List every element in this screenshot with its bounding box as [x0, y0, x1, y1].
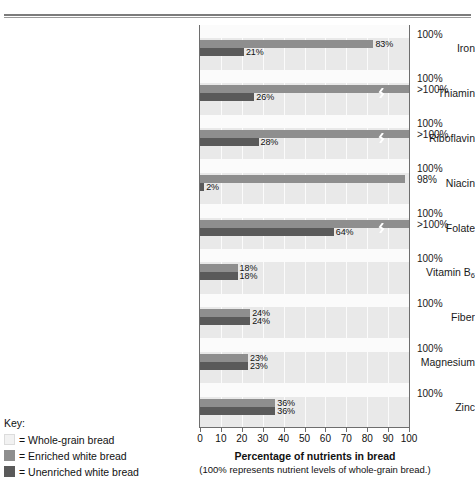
- x-axis-tick: [284, 428, 285, 432]
- x-axis-tick: [346, 428, 347, 432]
- category-label-niacin: Niacin: [285, 177, 475, 189]
- reference-label-niacin: 100%98%: [417, 163, 443, 185]
- bar-unenriched: [200, 93, 254, 101]
- reference-label-magnesium: 100%: [417, 343, 443, 354]
- bar-value-label-unenriched: 23%: [250, 362, 268, 370]
- legend-label-whole-grain: = Whole-grain bread: [19, 434, 114, 446]
- bar-enriched: [200, 354, 248, 362]
- bar-value-label-unenriched: 28%: [261, 138, 279, 146]
- bar-unenriched: [200, 48, 244, 56]
- bar-value-label-unenriched: 18%: [240, 272, 258, 280]
- bar-unenriched: [200, 138, 259, 146]
- x-axis-tick: [200, 428, 201, 432]
- legend-title: Key:: [4, 417, 194, 429]
- axis-title: Percentage of nutrients in bread: [169, 450, 461, 462]
- group-separator-band: [200, 294, 409, 307]
- legend-item-unenriched: = Unenriched white bread: [4, 464, 194, 479]
- reference-label-zinc: 100%: [417, 388, 443, 399]
- bar-enriched: [200, 264, 238, 272]
- reference-label-folate: 100%>100%: [417, 208, 448, 230]
- bar-unenriched: [200, 272, 238, 280]
- x-axis-tick: [242, 428, 243, 432]
- chart-figure: 83%21%26%28%2%64%18%18%24%24%23%23%36%36…: [0, 0, 475, 493]
- x-axis-tick: [221, 428, 222, 432]
- reference-label-fiber: 100%: [417, 298, 443, 309]
- top-divider-rule: [4, 14, 471, 18]
- bar-unenriched: [200, 407, 275, 415]
- reference-label-vitamin-b6: 100%: [417, 253, 443, 264]
- group-separator-band: [200, 249, 409, 262]
- reference-label-thiamin: 100%>100%: [417, 73, 448, 95]
- group-separator-band: [200, 70, 409, 83]
- bar-value-label-unenriched: 24%: [252, 317, 270, 325]
- bar-value-label-unenriched: 21%: [246, 48, 264, 56]
- legend-label-unenriched: = Unenriched white bread: [19, 466, 139, 478]
- x-axis-tick-label: 100: [396, 433, 422, 444]
- category-label-zinc: Zinc: [285, 401, 475, 413]
- legend-item-enriched: = Enriched white bread: [4, 448, 194, 463]
- reference-label-iron: 100%: [417, 29, 443, 40]
- bar-unenriched: [200, 317, 250, 325]
- group-separator-band: [200, 159, 409, 172]
- bar-enriched: [200, 309, 250, 317]
- legend-swatch-whole-grain: [4, 434, 15, 445]
- bar-enriched: [200, 399, 275, 407]
- group-separator-band: [200, 338, 409, 351]
- group-separator-band: [200, 25, 409, 38]
- bar-value-label-unenriched: 26%: [256, 93, 274, 101]
- legend-swatch-unenriched: [4, 466, 15, 477]
- x-axis-tick: [388, 428, 389, 432]
- bar-unenriched: [200, 362, 248, 370]
- x-axis-tick: [409, 428, 410, 432]
- x-axis-tick: [325, 428, 326, 432]
- reference-label-riboflavin: 100%>100%: [417, 118, 448, 140]
- bar-unenriched: [200, 183, 204, 191]
- legend-label-enriched: = Enriched white bread: [19, 450, 127, 462]
- legend-item-whole-grain: = Whole-grain bread: [4, 432, 194, 447]
- x-axis-tick: [263, 428, 264, 432]
- x-axis-tick: [305, 428, 306, 432]
- category-label-magnesium: Magnesium: [285, 356, 475, 368]
- group-separator-band: [200, 115, 409, 128]
- legend: Key: = Whole-grain bread = Enriched whit…: [4, 417, 194, 480]
- bar-value-label-unenriched: 2%: [206, 183, 219, 191]
- category-label-fiber: Fiber: [285, 311, 475, 323]
- legend-swatch-enriched: [4, 450, 15, 461]
- category-label-vitamin-b6: Vitamin B6: [285, 266, 475, 280]
- axis-subtitle: (100% represents nutrient levels of whol…: [159, 464, 471, 475]
- group-separator-band: [200, 204, 409, 217]
- x-axis-tick: [367, 428, 368, 432]
- category-label-iron: Iron: [285, 42, 475, 54]
- group-separator-band: [200, 383, 409, 396]
